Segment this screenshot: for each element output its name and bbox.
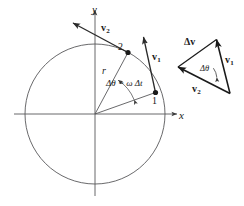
v1-label-triangle: v1 <box>225 55 234 67</box>
physics-figure: y x 2 1 r Δθ = ω Δt v2 v1 Δv v1 v2 Δθ <box>0 0 244 206</box>
delta-theta-equation-label: Δθ = ω Δt <box>106 79 143 88</box>
point-1-label: 1 <box>152 96 157 106</box>
figure-canvas <box>0 0 244 206</box>
point-2-dot <box>125 50 130 55</box>
point-2-label: 2 <box>118 42 123 52</box>
v2-label-triangle-sub: 2 <box>197 88 201 96</box>
radius-label: r <box>102 66 106 76</box>
v2-label-triangle: v2 <box>192 84 201 96</box>
v2-label-circle: v2 <box>101 23 110 35</box>
delta-theta-arc-triangle <box>213 68 216 77</box>
radius-to-point-1 <box>95 93 156 115</box>
delta-theta-label-triangle: Δθ <box>200 64 209 73</box>
v1-label-circle: v1 <box>152 52 161 64</box>
delta-v-label: Δv <box>184 37 195 47</box>
y-axis-label: y <box>92 4 97 15</box>
v1-label-triangle-sub: 1 <box>230 59 234 67</box>
v2-label-circle-sub: 2 <box>106 27 110 35</box>
v1-label-circle-sub: 1 <box>157 56 161 64</box>
x-axis-label: x <box>179 110 184 121</box>
